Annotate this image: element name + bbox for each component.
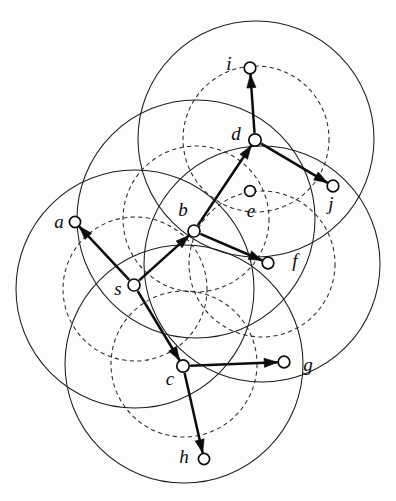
node-label-h: h [179,446,189,467]
node-label-b: b [178,199,188,220]
node-h[interactable] [198,453,209,464]
node-label-c: c [166,368,175,389]
node-e[interactable] [245,186,256,197]
node-d[interactable] [249,134,261,146]
node-labels-layer: sabcdefghij [54,53,333,467]
node-label-a: a [54,211,64,232]
node-label-f: f [292,250,300,271]
nodes-layer [69,62,338,464]
edge-b-to-d [198,146,251,226]
node-j[interactable] [327,180,339,192]
node-label-d: d [231,123,241,144]
node-i[interactable] [244,62,256,74]
figure-container: sabcdefghij [0,0,396,501]
arrowhead-c-to-h [195,439,204,453]
node-label-i: i [226,53,231,74]
node-c[interactable] [177,360,189,372]
range-circle-solid-b [77,100,315,338]
graph-diagram: sabcdefghij [0,0,396,501]
node-s[interactable] [128,279,140,291]
arrowhead-b-to-f [248,251,262,261]
arrowhead-d-to-j [314,172,328,183]
node-label-e: e [247,200,255,221]
node-a[interactable] [69,216,80,227]
arrowhead-c-to-g [264,358,278,367]
arrowhead-d-to-i [247,74,256,88]
node-g[interactable] [278,356,290,368]
node-label-g: g [303,354,313,375]
node-label-s: s [114,278,121,299]
arrowhead-s-to-c [169,346,180,360]
node-b[interactable] [188,225,200,237]
node-label-j: j [325,193,333,214]
node-f[interactable] [262,257,274,269]
solid-range-circles-layer [16,21,380,483]
